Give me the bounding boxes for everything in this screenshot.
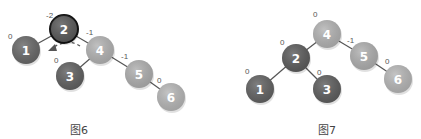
node-label: 3 <box>323 83 331 97</box>
tree-node-3: 3 <box>313 75 342 105</box>
node-label: 2 <box>292 52 300 66</box>
node-label: 4 <box>96 44 104 58</box>
tree-node-4: 4 <box>86 36 115 66</box>
avl-rotation-diagram: 2-2104-1305-160 40205-1103060 <box>0 0 421 139</box>
figure-7-caption: 图7 <box>318 121 336 137</box>
balance-factor: 0 <box>317 68 322 77</box>
tree-node-6: 6 <box>384 65 413 95</box>
balance-factor: 0 <box>157 76 162 85</box>
balance-factor: 0 <box>313 10 318 19</box>
figure-7-tree: 40205-1103060 <box>245 10 413 105</box>
node-label: 5 <box>135 68 143 82</box>
balance-factor: -1 <box>347 36 355 45</box>
node-label: 6 <box>167 91 175 105</box>
arrowhead-icon <box>48 44 57 51</box>
tree-node-4: 4 <box>313 20 342 50</box>
figure-6-caption: 图6 <box>70 121 88 137</box>
node-label: 2 <box>60 23 68 37</box>
balance-factor: 0 <box>54 56 59 65</box>
tree-node-2: 2 <box>50 15 79 45</box>
figure-6-tree: 2-2104-1305-160 <box>8 11 186 113</box>
balance-factor: 0 <box>385 57 390 66</box>
balance-factor: -1 <box>86 28 94 37</box>
balance-factor: -2 <box>46 11 54 20</box>
balance-factor: 0 <box>8 32 13 41</box>
balance-factor: 0 <box>245 67 250 76</box>
node-label: 6 <box>394 73 402 87</box>
node-label: 4 <box>323 28 331 42</box>
tree-node-1: 1 <box>12 36 41 66</box>
tree-node-6: 6 <box>157 83 186 113</box>
node-label: 3 <box>66 70 74 84</box>
tree-node-2: 2 <box>282 44 311 74</box>
node-label: 1 <box>22 44 30 58</box>
tree-node-5: 5 <box>350 42 379 72</box>
tree-node-5: 5 <box>125 60 154 90</box>
node-label: 5 <box>360 50 368 64</box>
node-label: 1 <box>256 83 264 97</box>
balance-factor: 0 <box>280 38 285 47</box>
balance-factor: -1 <box>121 52 129 61</box>
